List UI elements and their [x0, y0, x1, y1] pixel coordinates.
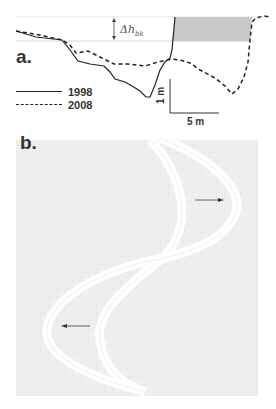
dashed-line-swatch: [16, 104, 62, 105]
shaded-bank-area: [172, 17, 252, 41]
panel-a-label: a.: [16, 46, 32, 68]
panel-b-label: b.: [20, 132, 37, 154]
legend-item-1998: 1998: [16, 85, 92, 98]
panel-b-meander-planform: b.: [0, 135, 276, 409]
delta-h-symbol: Δh: [120, 23, 135, 36]
vertical-scale-label: 1 m: [155, 87, 166, 104]
scale-bar: [170, 79, 219, 113]
legend: 1998 2008: [16, 85, 92, 111]
solid-line-swatch: [16, 91, 62, 92]
legend-label-1998: 1998: [68, 86, 92, 98]
legend-label-2008: 2008: [68, 99, 92, 111]
delta-h-bankfull-label: Δhbk: [120, 23, 144, 38]
delta-h-subscript: bk: [135, 30, 144, 38]
legend-item-2008: 2008: [16, 98, 92, 111]
horizontal-scale-label: 5 m: [187, 116, 204, 127]
cross-section-plot: [0, 0, 276, 135]
meander-diagram: [0, 135, 276, 409]
panel-a-cross-section: a. Δhbk 1998 2008 1 m 5 m: [0, 0, 276, 135]
